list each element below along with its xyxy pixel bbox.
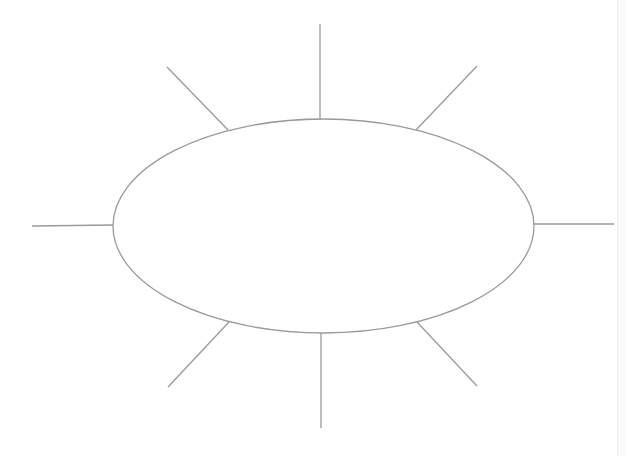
spoke-bottom-left [168, 322, 229, 387]
spider-diagram [0, 0, 626, 456]
spoke-bottom-right [417, 322, 477, 386]
spoke-left [32, 225, 113, 226]
hub-ellipse [113, 119, 534, 333]
spoke-top-right [416, 66, 477, 130]
spoke-top-left [167, 67, 228, 130]
